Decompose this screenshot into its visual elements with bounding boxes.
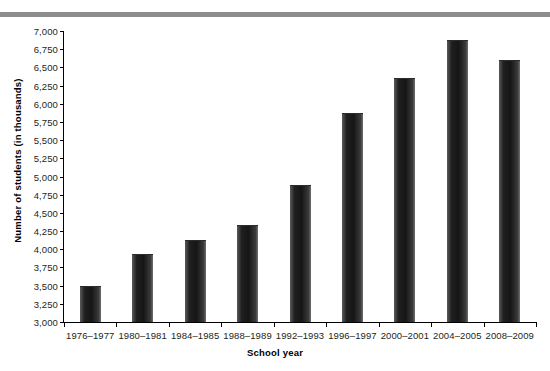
y-tick-mark <box>60 122 64 123</box>
y-tick-mark <box>60 286 64 287</box>
bar <box>185 240 206 322</box>
bar <box>342 113 363 322</box>
x-tick-label: 1980–1981 <box>118 330 166 341</box>
x-tick-label: 1976–1977 <box>66 330 114 341</box>
y-tick-mark <box>60 31 64 32</box>
bar <box>499 60 520 322</box>
y-tick-mark <box>60 195 64 196</box>
x-tick-mark <box>221 322 222 327</box>
bar <box>132 254 153 322</box>
x-tick-mark <box>484 322 485 327</box>
y-tick-mark <box>60 67 64 68</box>
x-tick-label: 2004–2005 <box>433 330 481 341</box>
x-tick-mark <box>116 322 117 327</box>
x-tick-mark <box>274 322 275 327</box>
y-tick-mark <box>60 213 64 214</box>
y-tick-mark <box>60 304 64 305</box>
x-tick-mark <box>379 322 380 327</box>
bar <box>447 40 468 322</box>
bar <box>237 225 258 322</box>
x-tick-label: 1996–1997 <box>328 330 376 341</box>
x-tick-mark <box>64 322 65 327</box>
x-tick-label: 1988–1989 <box>223 330 271 341</box>
y-tick-mark <box>60 140 64 141</box>
y-tick-mark <box>60 104 64 105</box>
bar <box>80 286 101 322</box>
y-axis-title: Number of students (in thousands) <box>12 51 23 271</box>
x-axis-title: School year <box>0 347 550 358</box>
y-tick-mark <box>60 231 64 232</box>
y-tick-mark <box>60 158 64 159</box>
y-tick-mark <box>60 267 64 268</box>
y-tick-mark <box>60 249 64 250</box>
y-tick-mark <box>60 49 64 50</box>
x-tick-label: 1984–1985 <box>171 330 219 341</box>
x-tick-mark <box>536 322 537 327</box>
bar <box>394 78 415 322</box>
x-tick-mark <box>169 322 170 327</box>
bar <box>290 185 311 322</box>
x-tick-label: 2008–2009 <box>486 330 534 341</box>
x-tick-mark <box>326 322 327 327</box>
y-tick-mark <box>60 86 64 87</box>
x-tick-mark <box>431 322 432 327</box>
bar-chart: 7,0006,7506,5006,2506,0005,7505,5005,250… <box>0 0 550 371</box>
x-axis-line <box>63 322 536 323</box>
x-tick-label: 2000–2001 <box>381 330 429 341</box>
x-tick-label: 1992–1993 <box>276 330 324 341</box>
plot-area: 7,0006,7506,5006,2506,0005,7505,5005,250… <box>64 31 536 322</box>
y-tick-mark <box>60 177 64 178</box>
